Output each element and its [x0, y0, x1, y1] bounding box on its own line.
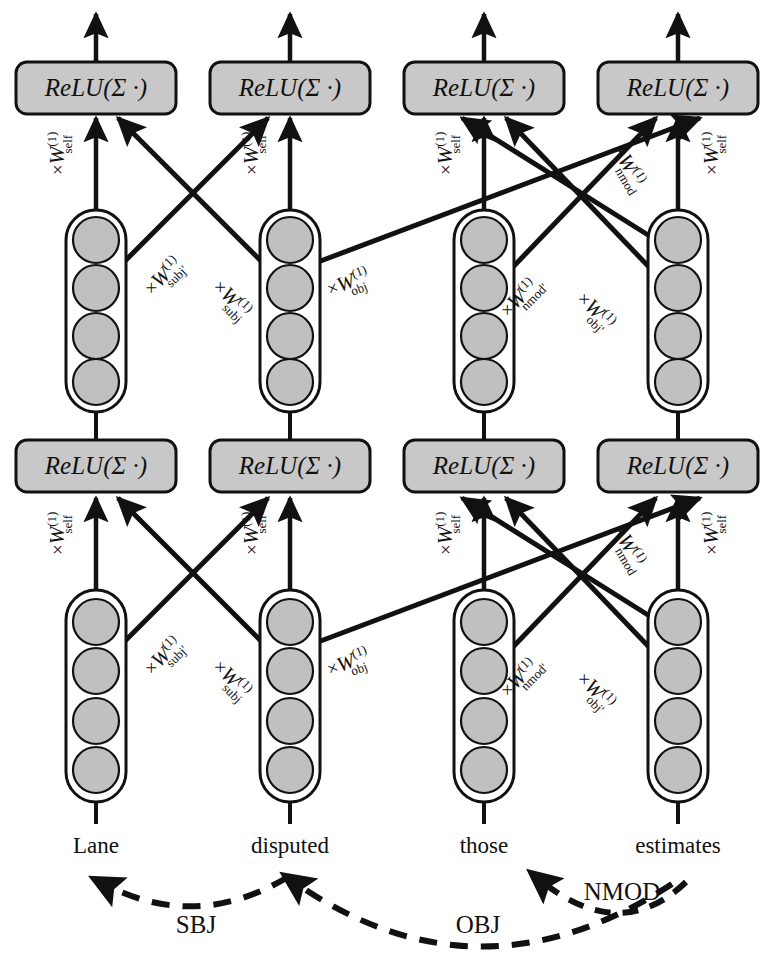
dependency-arcs: SBJ OBJ NMOD [104, 877, 686, 947]
vector-unit [73, 217, 119, 263]
vector-unit [73, 359, 119, 405]
weight-label-subjprime-upper: ×W(1)subj' [138, 251, 191, 304]
dep-label-obj: OBJ [456, 911, 501, 938]
vector-unit [73, 648, 119, 694]
vector-capsule-bottom-1 [66, 590, 126, 802]
output-arrows [96, 14, 678, 62]
weight-label-self-c4-lower: ×W(1)self [698, 512, 729, 555]
upper-block-edges [96, 118, 700, 268]
vector-unit [655, 359, 701, 405]
svg-text:×W(1)self: ×W(1)self [238, 132, 269, 175]
vector-unit [655, 648, 701, 694]
vector-unit [267, 648, 313, 694]
relu-label-mid-1: ReLU(Σ ·) [44, 452, 147, 480]
svg-text:×W(1)self: ×W(1)self [432, 512, 463, 555]
svg-text:×W(1)obj': ×W(1)obj' [568, 666, 621, 719]
weight-label-subj-lower: ×W(1)subj [204, 654, 257, 707]
relu-label-top-4: ReLU(Σ ·) [626, 74, 729, 102]
vector-capsule-mid-1 [66, 210, 126, 412]
svg-text:×W(1)self: ×W(1)self [698, 512, 729, 555]
vector-unit [461, 217, 507, 263]
weight-label-self-c4-upper: ×W(1)self [698, 132, 729, 175]
weight-label-obj-upper: ×W(1)obj [323, 262, 375, 306]
lower-block-edges [96, 498, 700, 648]
vector-unit [655, 265, 701, 311]
svg-text:×W(1)obj: ×W(1)obj [323, 262, 375, 306]
dep-label-nmod: NMOD [584, 878, 660, 905]
weight-label-self-c2-upper: ×W(1)self [238, 132, 269, 175]
word-label-row: Lane disputed those estimates [73, 833, 721, 858]
diagram-canvas: ReLU(Σ ·) ReLU(Σ ·) ReLU(Σ ·) ReLU(Σ ·) [0, 0, 767, 965]
weight-label-self-c1-lower: ×W(1)self [44, 512, 75, 555]
vector-unit [461, 747, 507, 793]
vector-capsule-mid-2 [260, 210, 320, 412]
svg-text:×W(1)self: ×W(1)self [44, 512, 75, 555]
weight-label-self-c3-upper: ×W(1)self [432, 132, 463, 175]
weight-label-objprime-lower: ×W(1)obj' [568, 666, 621, 719]
relu-label-mid-3: ReLU(Σ ·) [432, 452, 535, 480]
svg-text:×W(1)self: ×W(1)self [238, 512, 269, 555]
svg-text:×W(1)obj': ×W(1)obj' [568, 286, 621, 339]
vector-unit [73, 265, 119, 311]
weight-label-subj-upper: ×W(1)subj [204, 274, 257, 327]
gcn-diagram: ReLU(Σ ·) ReLU(Σ ·) ReLU(Σ ·) ReLU(Σ ·) [0, 0, 767, 965]
vector-unit [267, 599, 313, 645]
word-label-those: those [460, 833, 509, 858]
vector-unit [73, 313, 119, 359]
top-relu-row: ReLU(Σ ·) ReLU(Σ ·) ReLU(Σ ·) ReLU(Σ ·) [16, 62, 758, 114]
svg-text:×W(1)subj': ×W(1)subj' [138, 251, 191, 304]
middle-stems [96, 412, 678, 440]
weight-label-self-c1-upper: ×W(1)self [44, 132, 75, 175]
relu-label-top-3: ReLU(Σ ·) [432, 74, 535, 102]
relu-label-top-2: ReLU(Σ ·) [238, 74, 341, 102]
weight-label-subjprime-lower: ×W(1)subj' [138, 631, 191, 684]
relu-label-mid-2: ReLU(Σ ·) [238, 452, 341, 480]
vector-unit [267, 217, 313, 263]
dep-label-sbj: SBJ [176, 911, 217, 938]
dep-arc-sbj [104, 877, 288, 906]
vector-unit [461, 359, 507, 405]
vector-unit [267, 747, 313, 793]
relu-label-top-1: ReLU(Σ ·) [44, 74, 147, 102]
vector-unit [461, 698, 507, 744]
svg-text:×W(1)subj: ×W(1)subj [204, 274, 257, 327]
vector-unit [73, 747, 119, 793]
relu-label-mid-4: ReLU(Σ ·) [626, 452, 729, 480]
vector-unit [461, 599, 507, 645]
word-label-estimates: estimates [635, 833, 721, 858]
svg-text:×W(1)self: ×W(1)self [432, 132, 463, 175]
vector-unit [73, 599, 119, 645]
svg-text:×W(1)subj: ×W(1)subj [204, 654, 257, 707]
vector-unit [267, 359, 313, 405]
vector-unit [655, 698, 701, 744]
middle-relu-row: ReLU(Σ ·) ReLU(Σ ·) ReLU(Σ ·) ReLU(Σ ·) [16, 440, 758, 492]
word-stems [96, 802, 678, 824]
svg-text:×W(1)subj': ×W(1)subj' [138, 631, 191, 684]
weight-label-obj-lower: ×W(1)obj [323, 642, 375, 686]
svg-text:×W(1)self: ×W(1)self [698, 132, 729, 175]
vector-capsule-bottom-4 [648, 590, 708, 802]
vector-unit [267, 313, 313, 359]
vector-unit [655, 599, 701, 645]
svg-text:×W(1)obj: ×W(1)obj [323, 642, 375, 686]
vector-unit [267, 265, 313, 311]
vector-unit [655, 313, 701, 359]
vector-unit [655, 747, 701, 793]
vector-capsule-bottom-2 [260, 590, 320, 802]
word-label-disputed: disputed [251, 833, 329, 858]
weight-label-objprime-upper: ×W(1)obj' [568, 286, 621, 339]
vector-unit [461, 313, 507, 359]
weight-label-self-c3-lower: ×W(1)self [432, 512, 463, 555]
vector-unit [655, 217, 701, 263]
word-label-lane: Lane [73, 833, 119, 858]
vector-unit [267, 698, 313, 744]
vector-unit [73, 698, 119, 744]
svg-text:×W(1)self: ×W(1)self [44, 132, 75, 175]
weight-label-self-c2-lower: ×W(1)self [238, 512, 269, 555]
vector-capsule-mid-4 [648, 210, 708, 412]
